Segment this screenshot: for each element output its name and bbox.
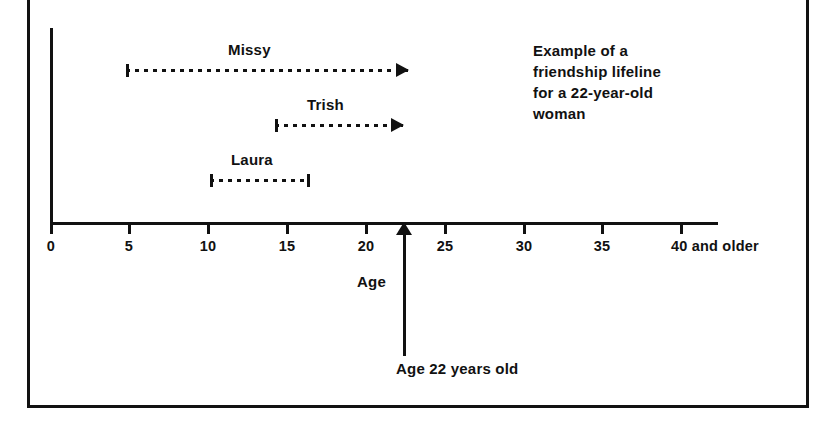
x-tick-25 [444, 225, 447, 234]
lifeline-arrow-icon-missy [396, 63, 409, 77]
x-tick-5 [128, 225, 131, 234]
age-pointer-stem [403, 232, 406, 356]
figure-caption: Example of a friendship lifeline for a 2… [533, 40, 661, 124]
lifeline-arrow-icon-trish [391, 118, 404, 132]
x-tick-label-20: 20 [358, 238, 375, 254]
x-tick-15 [286, 225, 289, 234]
x-tick-label-35: 35 [594, 238, 611, 254]
caption-line-3: for a 22-year-old [533, 82, 661, 103]
figure-border [27, 0, 809, 408]
age-pointer-label: Age 22 years old [396, 360, 518, 377]
x-tick-0 [50, 225, 53, 234]
y-axis-line [50, 28, 53, 224]
lifeline-end-cap-laura [307, 174, 310, 187]
x-tick-20 [365, 225, 368, 234]
lifeline-label-missy: Missy [228, 41, 271, 58]
x-tick-10 [207, 225, 210, 234]
x-tick-label-10: 10 [200, 238, 217, 254]
lifeline-laura [210, 174, 310, 187]
x-tick-label-15: 15 [279, 238, 296, 254]
caption-line-1: Example of a [533, 40, 661, 61]
lifeline-dash-missy [126, 69, 408, 72]
caption-line-2: friendship lifeline [533, 61, 661, 82]
x-axis-title: Age [357, 273, 386, 290]
lifeline-missy [126, 64, 408, 77]
caption-line-4: woman [533, 103, 661, 124]
lifeline-label-laura: Laura [231, 151, 273, 168]
x-tick-30 [523, 225, 526, 234]
x-axis-line [50, 222, 718, 225]
lifeline-label-trish: Trish [307, 96, 344, 113]
x-tick-40 [680, 225, 683, 234]
friendship-lifeline-figure: 0 5 10 15 20 25 30 35 40 and older Missy… [0, 0, 839, 430]
x-tick-label-5: 5 [125, 238, 133, 254]
lifeline-trish [275, 119, 403, 132]
x-tick-label-30: 30 [516, 238, 533, 254]
x-tick-label-25: 25 [437, 238, 454, 254]
x-tick-35 [601, 225, 604, 234]
lifeline-dash-trish [275, 124, 403, 127]
x-tick-label-40: 40 and older [671, 238, 759, 254]
x-tick-label-0: 0 [47, 238, 55, 254]
lifeline-dash-laura [210, 179, 310, 182]
